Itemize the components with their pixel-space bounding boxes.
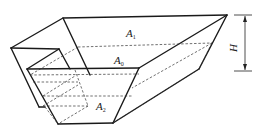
mid-section-left (30, 47, 78, 75)
left-inner-slant (59, 49, 70, 69)
height-dimension: H (227, 15, 252, 71)
left-outer-top (11, 48, 59, 49)
back-inner-slant (63, 18, 90, 75)
arrow-up-icon (243, 16, 247, 22)
hidden-edges (30, 43, 212, 124)
solid-edges (11, 15, 227, 124)
mid-section-back (78, 43, 212, 47)
area-labels: A1 A0 A2 (95, 27, 136, 113)
inner-face-diag (27, 49, 59, 69)
hidden-back-left (45, 107, 58, 124)
hidden-diag-2 (43, 76, 75, 96)
label-a0: A0 (113, 54, 124, 67)
prismoid-diagram: H A1 A0 A2 (0, 0, 258, 139)
top-front-edge (27, 68, 139, 69)
height-label: H (227, 43, 239, 53)
arrow-down-icon (243, 64, 247, 70)
bottom-front-edge (58, 123, 113, 124)
label-a2: A2 (95, 100, 106, 113)
top-back-edge (11, 15, 227, 48)
hidden-vert-1 (75, 70, 88, 106)
front-left-slant (27, 69, 58, 124)
label-a1: A1 (125, 27, 136, 40)
mid-section-front (30, 74, 139, 75)
hidden-diag-3 (43, 85, 78, 106)
hidden-bottom-diag (58, 106, 88, 124)
left-outer-vertical (11, 48, 39, 107)
